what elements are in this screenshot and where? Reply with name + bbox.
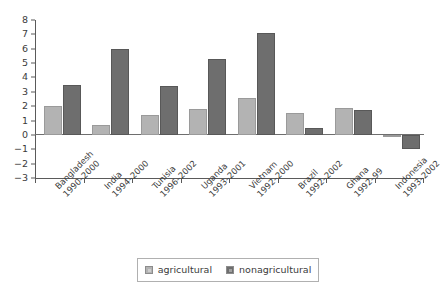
legend-swatch-agricultural-icon [145, 266, 153, 274]
y-tick-label: 3 [0, 87, 28, 97]
legend-item-agricultural[interactable]: agricultural [145, 265, 212, 275]
bar-nonagricultural-7 [402, 135, 420, 149]
y-tick-label: −3 [0, 173, 28, 183]
y-tick-label: 6 [0, 44, 28, 54]
bar-nonagricultural-2 [160, 86, 178, 135]
bar-nonagricultural-4 [257, 33, 275, 135]
legend-swatch-nonagricultural-icon [226, 266, 234, 274]
bar-agricultural-7 [383, 135, 401, 137]
bar-agricultural-6 [335, 108, 353, 135]
chart-legend: agricultural nonagricultural [137, 258, 319, 282]
legend-label-nonagricultural: nonagricultural [239, 265, 311, 275]
y-tick-label: 5 [0, 58, 28, 68]
bar-agricultural-1 [92, 125, 110, 135]
bar-nonagricultural-6 [354, 110, 372, 134]
y-tick-label: 0 [0, 130, 28, 140]
y-tick-label: 4 [0, 73, 28, 83]
bar-agricultural-0 [44, 106, 62, 135]
y-tick-label: 8 [0, 15, 28, 25]
bar-agricultural-5 [286, 113, 304, 135]
legend-item-nonagricultural[interactable]: nonagricultural [226, 265, 311, 275]
legend-label-agricultural: agricultural [158, 265, 212, 275]
bar-nonagricultural-1 [111, 49, 129, 135]
y-tick-label: 1 [0, 116, 28, 126]
bar-agricultural-4 [238, 98, 256, 135]
y-tick-label: −2 [0, 159, 28, 169]
x-axis-tick [35, 178, 36, 183]
bar-agricultural-3 [189, 109, 207, 135]
bar-nonagricultural-5 [305, 128, 323, 135]
bar-nonagricultural-3 [208, 59, 226, 135]
y-tick-label: 7 [0, 30, 28, 40]
bar-nonagricultural-0 [63, 85, 81, 135]
bar-agricultural-2 [141, 115, 159, 135]
y-tick-label: −1 [0, 145, 28, 155]
y-tick-label: 2 [0, 101, 28, 111]
